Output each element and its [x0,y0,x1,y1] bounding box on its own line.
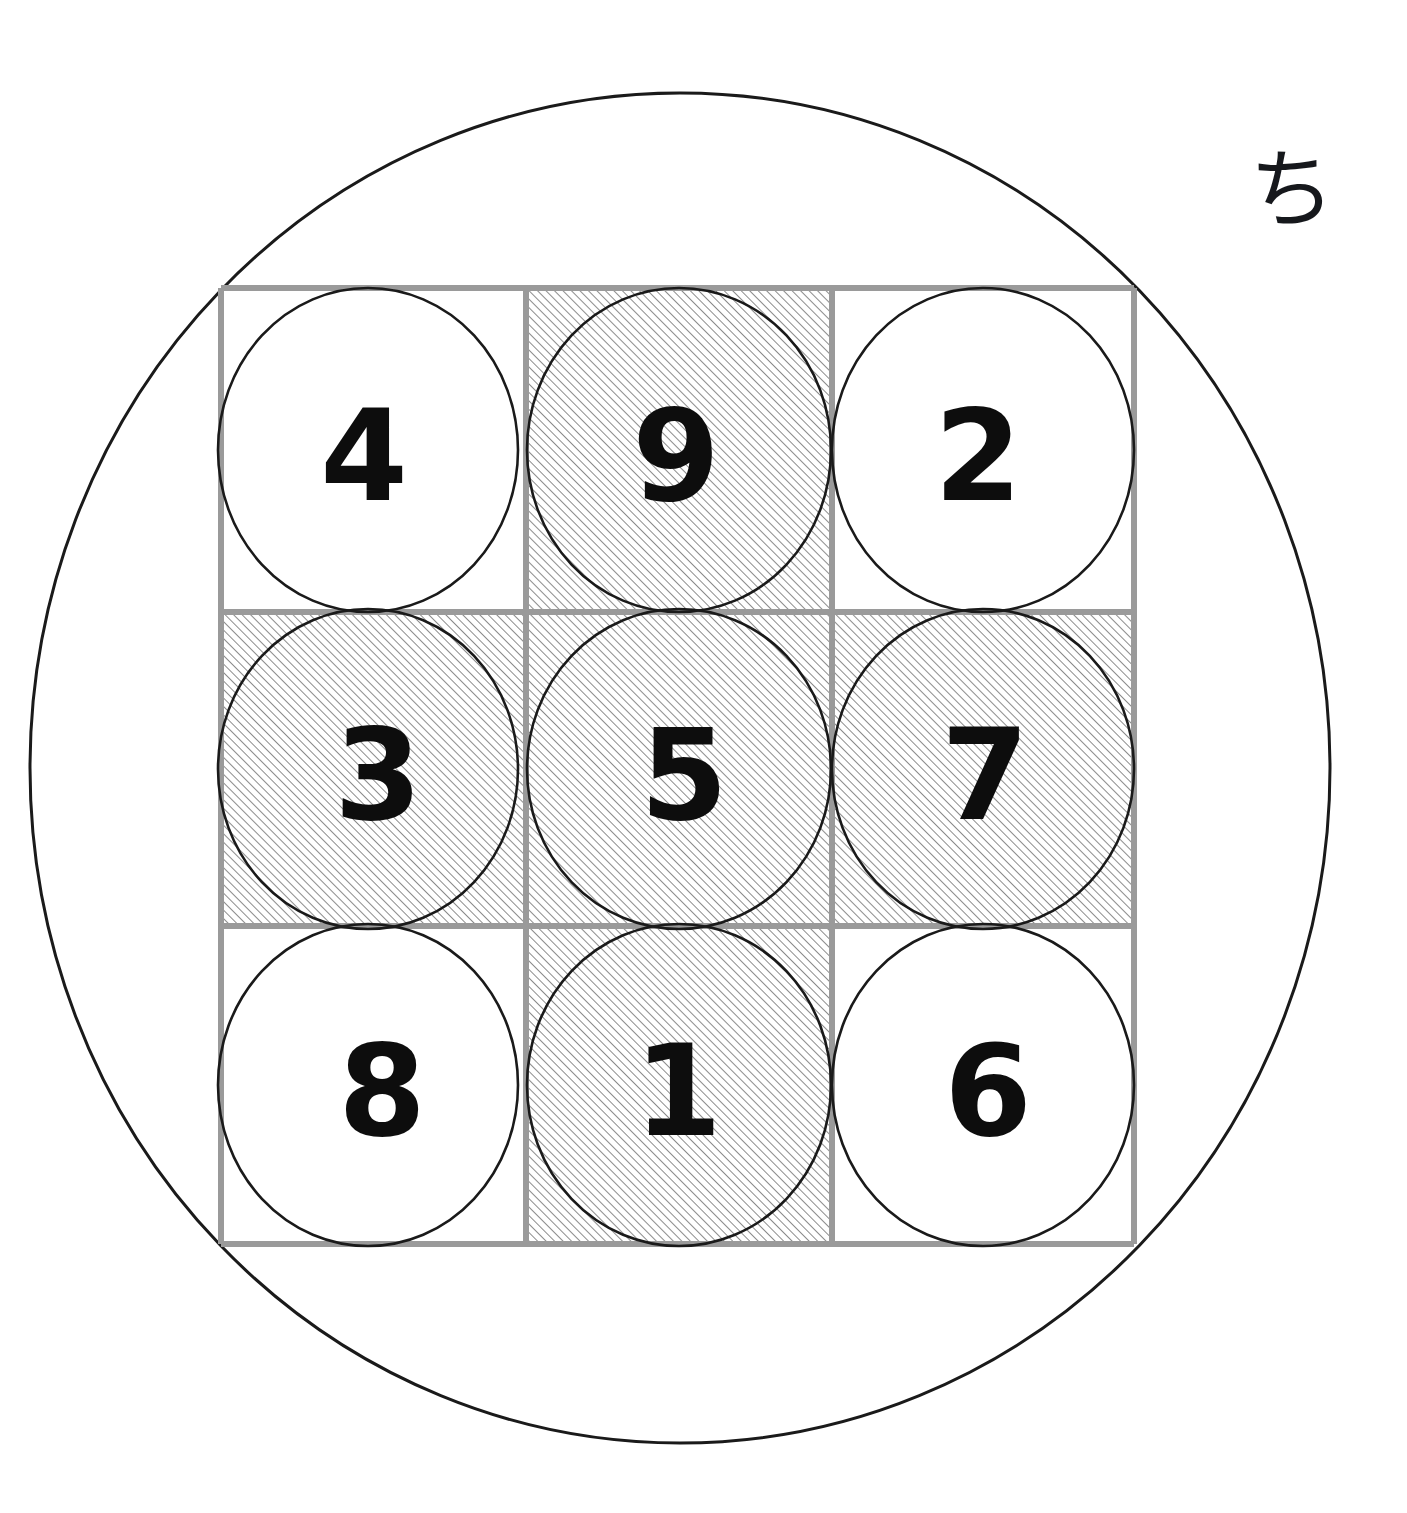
cell-digit-r3c2: 1 [634,1018,722,1165]
cell-digit-r1c1: 4 [320,383,408,530]
cell-digit-r1c2: 9 [632,383,720,530]
cell-digit-r2c2: 5 [640,702,728,849]
cell-digit-r1c3: 2 [934,383,1022,530]
cell-digit-r3c1: 8 [338,1018,426,1165]
magic-square-svg: 492357816 [0,0,1407,1513]
figure-canvas: 492357816 ち [0,0,1407,1513]
cell-digit-r3c3: 6 [944,1018,1032,1165]
cell-digit-r2c3: 7 [941,702,1029,849]
cell-digit-r2c1: 3 [334,702,422,849]
hiragana-chi-icon: ち [1232,130,1352,250]
